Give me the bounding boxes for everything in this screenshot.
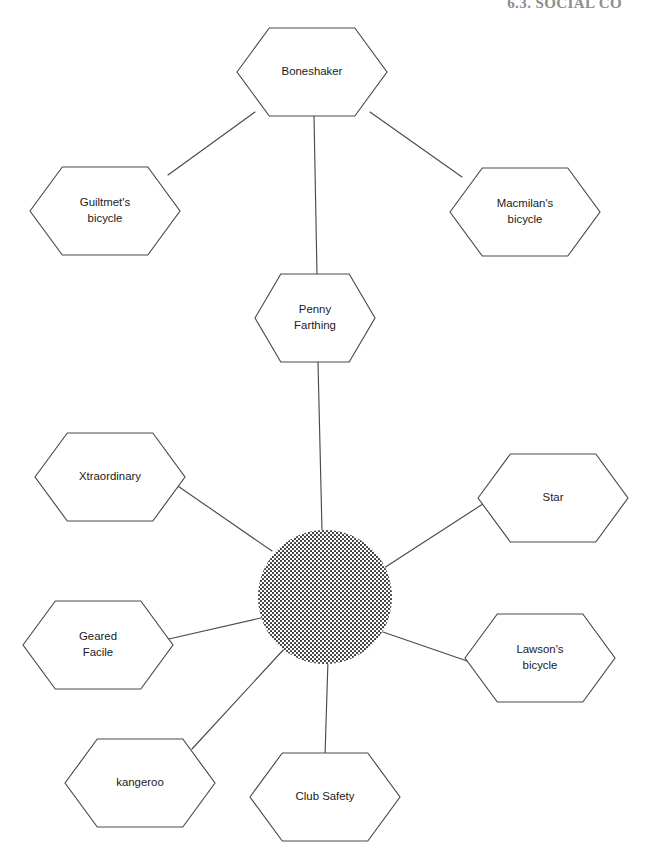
node-label-line: Facile [83, 646, 113, 658]
node-label-line: bicycle [508, 213, 543, 225]
hexagon-shape-macmilans-bicycle [450, 168, 600, 256]
node-label-line: bicycle [523, 659, 558, 671]
hub-layer [258, 530, 392, 664]
node-label-star: Star [543, 491, 564, 503]
node-label-line: Penny [299, 303, 332, 315]
edge-penny-farthing-to-stippled-hub [318, 362, 322, 531]
node-boneshaker[interactable]: Boneshaker [237, 28, 387, 116]
hexagon-shape-guiltmets-bicycle [30, 167, 180, 255]
node-penny-farthing[interactable]: PennyFarthing [255, 274, 375, 362]
node-label-line: Guiltmet's [80, 196, 131, 208]
edge-stippled-hub-to-club-safety [325, 660, 328, 756]
node-label-line: bicycle [88, 212, 123, 224]
node-label-line: Club Safety [296, 790, 355, 802]
node-label-line: Farthing [294, 319, 336, 331]
node-kangeroo[interactable]: kangeroo [65, 739, 215, 827]
node-label-line: Geared [79, 630, 117, 642]
node-label-line: kangeroo [116, 776, 164, 788]
node-label-xtraordinary: Xtraordinary [79, 470, 141, 482]
edge-stippled-hub-to-star [384, 500, 489, 568]
edge-boneshaker-to-penny-farthing [314, 116, 317, 275]
edge-boneshaker-to-macmilans-bicycle [370, 112, 462, 177]
page-canvas: 6.3. SOCIAL CO BoneshakerGuiltmet'sbicyc… [0, 0, 646, 867]
concept-map-diagram: BoneshakerGuiltmet'sbicycleMacmilan'sbic… [0, 0, 646, 867]
hexagon-shape-geared-facile [23, 601, 173, 689]
edge-stippled-hub-to-lawsons-bicycle [383, 632, 470, 662]
node-lawsons-bicycle[interactable]: Lawson'sbicycle [465, 614, 615, 702]
node-label-line: Macmilan's [497, 197, 554, 209]
hexagon-shape-lawsons-bicycle [465, 614, 615, 702]
node-label-line: Star [543, 491, 564, 503]
node-club-safety[interactable]: Club Safety [250, 753, 400, 841]
edge-stippled-hub-to-xtraordinary [172, 482, 272, 551]
node-label-line: Xtraordinary [79, 470, 141, 482]
node-label-kangeroo: kangeroo [116, 776, 164, 788]
hub-node-stippled-circle[interactable] [258, 530, 392, 664]
edge-stippled-hub-to-kangeroo [192, 648, 285, 749]
node-geared-facile[interactable]: GearedFacile [23, 601, 173, 689]
node-label-club-safety: Club Safety [296, 790, 355, 802]
edge-boneshaker-to-guiltmets-bicycle [168, 112, 255, 175]
hexagon-shape-penny-farthing [255, 274, 375, 362]
node-label-line: Boneshaker [282, 65, 343, 77]
nodes-layer: BoneshakerGuiltmet'sbicycleMacmilan'sbic… [23, 28, 628, 841]
node-star[interactable]: Star [478, 454, 628, 542]
edge-stippled-hub-to-geared-facile [160, 617, 265, 641]
node-macmilans-bicycle[interactable]: Macmilan'sbicycle [450, 168, 600, 256]
node-label-line: Lawson's [516, 643, 563, 655]
node-xtraordinary[interactable]: Xtraordinary [35, 433, 185, 521]
node-label-boneshaker: Boneshaker [282, 65, 343, 77]
node-guiltmets-bicycle[interactable]: Guiltmet'sbicycle [30, 167, 180, 255]
